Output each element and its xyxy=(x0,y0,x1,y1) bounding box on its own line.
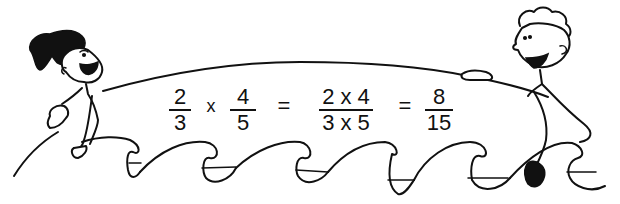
girl-hand xyxy=(48,106,68,128)
boy-eye xyxy=(524,37,527,40)
girl-surfer xyxy=(30,31,103,159)
illustration-scene xyxy=(0,0,620,204)
equals-sign: = xyxy=(399,93,412,119)
boy-surfer xyxy=(461,8,590,187)
fraction-numerator: 2 x 4 xyxy=(322,86,370,108)
fraction-numerator: 2 xyxy=(174,86,186,108)
boy-foot xyxy=(525,161,545,187)
fraction-denominator: 3 x 5 xyxy=(322,112,370,134)
fraction-two-thirds: 2 3 xyxy=(169,86,191,134)
boy-body xyxy=(540,70,590,142)
fraction-denominator: 5 xyxy=(237,112,249,134)
girl-eye-pupil xyxy=(83,54,86,57)
fraction-denominator: 3 xyxy=(174,112,186,134)
fraction-four-fifths: 4 5 xyxy=(230,86,256,134)
fraction-denominator: 15 xyxy=(427,112,451,134)
boy-eye-2 xyxy=(529,36,532,39)
equals-sign: = xyxy=(278,93,291,119)
boy-hand xyxy=(461,71,492,80)
fraction-numerator: 4 xyxy=(237,86,249,108)
fraction-result: 8 15 xyxy=(425,86,453,134)
fraction-numerator: 8 xyxy=(433,86,445,108)
fraction-product-expanded: 2 x 4 3 x 5 xyxy=(319,86,373,134)
multiply-sign: x xyxy=(207,96,216,117)
girl-body xyxy=(86,84,98,144)
